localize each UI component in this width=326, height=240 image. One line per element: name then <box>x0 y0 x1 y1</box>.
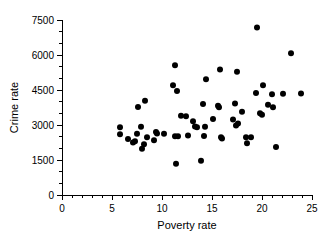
chart-canvas: 0150030004500600075000510152025Poverty r… <box>0 0 326 240</box>
data-point <box>134 131 140 137</box>
x-axis-tick-label: 25 <box>306 203 318 214</box>
data-point <box>138 124 144 130</box>
data-point <box>239 109 245 115</box>
x-axis-tick-label: 15 <box>206 203 218 214</box>
data-point <box>190 118 196 124</box>
y-axis-tick-label: 1500 <box>32 155 55 166</box>
data-point <box>260 82 266 88</box>
data-point <box>142 98 148 104</box>
x-axis-tick-label: 10 <box>156 203 168 214</box>
data-point <box>201 133 207 139</box>
data-point <box>217 66 223 72</box>
data-point <box>183 113 189 119</box>
data-point <box>117 124 123 130</box>
data-point <box>203 76 209 82</box>
data-point <box>185 133 191 139</box>
data-point <box>174 88 180 94</box>
data-point <box>298 91 304 97</box>
data-point <box>132 138 138 144</box>
data-point <box>235 121 241 127</box>
data-point <box>216 104 222 110</box>
data-point <box>232 101 238 107</box>
data-point <box>125 136 131 142</box>
data-point <box>273 144 279 150</box>
data-point <box>269 91 275 97</box>
data-point <box>202 124 208 130</box>
data-point <box>151 137 157 143</box>
data-point <box>288 50 294 56</box>
data-point <box>172 62 178 68</box>
data-point <box>117 131 123 137</box>
data-point <box>210 116 216 122</box>
data-point <box>244 140 250 146</box>
data-point <box>144 134 150 140</box>
scatter-plot-figure: 0150030004500600075000510152025Poverty r… <box>0 0 326 240</box>
y-axis-tick-label: 3000 <box>32 120 55 131</box>
y-axis-tick-label: 7500 <box>32 15 55 26</box>
y-axis-tick-label: 4500 <box>32 85 55 96</box>
x-axis-title: Poverty rate <box>157 219 216 231</box>
data-point <box>200 101 206 107</box>
data-point <box>194 124 200 130</box>
data-point <box>141 141 147 147</box>
data-point <box>234 69 240 75</box>
data-point <box>270 104 276 110</box>
data-point <box>259 112 265 118</box>
x-axis-tick-label: 20 <box>256 203 268 214</box>
y-axis-tick-label: 0 <box>48 190 54 201</box>
x-axis-tick-label: 5 <box>109 203 115 214</box>
data-point <box>173 161 179 167</box>
data-point <box>198 158 204 164</box>
data-point <box>280 91 286 97</box>
data-point <box>253 90 259 96</box>
y-axis-tick-label: 6000 <box>32 50 55 61</box>
data-point <box>219 136 225 142</box>
data-point <box>230 116 236 122</box>
y-axis-title: Crime rate <box>8 82 20 133</box>
data-point <box>248 134 254 140</box>
data-point <box>175 133 181 139</box>
x-axis-tick-label: 0 <box>59 203 65 214</box>
data-point <box>154 130 160 136</box>
data-point <box>170 82 176 88</box>
data-point <box>161 131 167 137</box>
data-point <box>135 104 141 110</box>
data-point <box>254 24 260 30</box>
